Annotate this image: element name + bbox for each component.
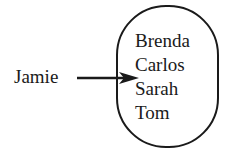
list-item-carlos: Carlos: [135, 53, 190, 77]
pointer-label: Jamie: [14, 66, 58, 88]
name-list: Brenda Carlos Sarah Tom: [135, 29, 190, 125]
list-item-brenda: Brenda: [135, 29, 190, 53]
list-item-sarah: Sarah: [135, 77, 190, 101]
list-item-tom: Tom: [135, 101, 190, 125]
